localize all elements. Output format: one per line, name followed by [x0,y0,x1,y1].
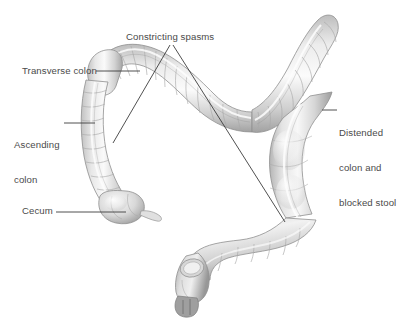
anal-canal [175,296,198,317]
label-constricting-spasms: Constricting spasms [126,31,214,43]
label-ascending-colon: Ascending colon [14,116,60,209]
label-transverse-colon: Transverse colon [22,65,97,77]
leader-line-spasm-right [173,45,285,222]
appendix [140,211,161,221]
ascending-colon [81,80,128,208]
label-ascending-colon-line1: Ascending [14,139,60,151]
label-distended-line3: blocked stool [339,197,396,209]
colon-illustration-figure: Constricting spasms Transverse colon Asc… [0,0,402,321]
label-ascending-colon-line2: colon [14,174,60,186]
label-distended-line1: Distended [339,127,396,139]
label-distended-line2: colon and [339,162,396,174]
cecum [99,191,145,224]
label-distended-colon-and-blocked-stool: Distended colon and blocked stool [339,104,396,232]
label-cecum: Cecum [22,205,53,217]
